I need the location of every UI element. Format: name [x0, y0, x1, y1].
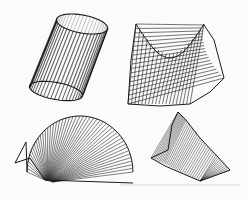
twisted-ruled-surface: [151, 112, 230, 181]
fan-surface: [15, 116, 133, 183]
ruled-surfaces-drawing: [0, 0, 247, 199]
hyperbolic-paraboloid: [128, 24, 224, 106]
ruled-cylinder: [29, 14, 108, 101]
figure-canvas: [0, 0, 247, 199]
